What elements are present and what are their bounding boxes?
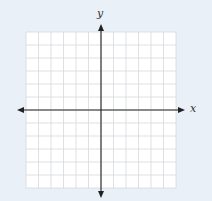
y-axis-up-arrow-icon (98, 24, 104, 31)
x-axis-label: x (190, 102, 196, 115)
y-axis-down-arrow-icon (98, 191, 104, 198)
x-axis-left-arrow-icon (17, 107, 24, 113)
x-axis-right-arrow-icon (178, 107, 185, 113)
coordinate-plane (0, 0, 212, 201)
y-axis-label: y (97, 7, 103, 20)
